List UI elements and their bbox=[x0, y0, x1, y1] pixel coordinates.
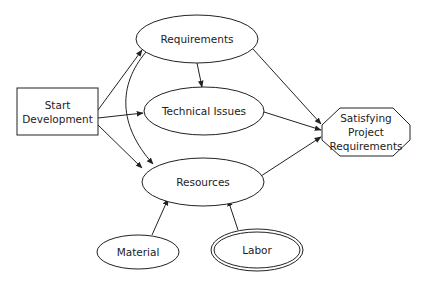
label-start-development: Start Development bbox=[17, 88, 98, 135]
edges bbox=[98, 49, 321, 235]
label-satisfying-project-requirements: Satisfying Project Requirements bbox=[322, 108, 410, 156]
label-material: Material bbox=[97, 235, 179, 269]
label-requirements: Requirements bbox=[136, 15, 258, 63]
edge-start-to-technical bbox=[98, 113, 143, 118]
label-labor: Labor bbox=[211, 229, 303, 271]
label-technical-issues: Technical Issues bbox=[144, 87, 264, 135]
edge-requirements-to-technical bbox=[197, 63, 202, 87]
edge-resources-to-satisfying bbox=[261, 137, 321, 176]
label-resources: Resources bbox=[142, 158, 264, 206]
edge-start-to-resources bbox=[98, 125, 142, 168]
